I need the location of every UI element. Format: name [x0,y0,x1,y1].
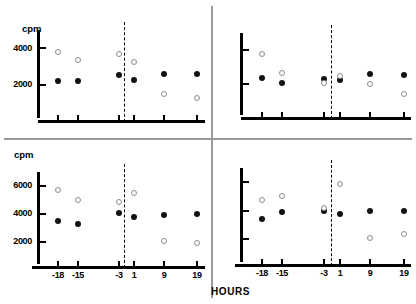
x-axis-tick [118,115,120,120]
x-axis-line [241,117,411,120]
y-axis-tick-label: 2000 [2,80,32,89]
panel-bottom-right: -18-15-31919 [213,140,416,304]
y-axis-tick-label: 2000 [2,237,32,246]
y-axis-tick [243,49,249,51]
data-point-open [131,190,137,196]
x-axis-label: HOURS [211,286,250,297]
data-point-open [279,193,285,199]
data-point-open [161,91,167,97]
data-point-filled [161,212,167,218]
x-axis-tick [339,259,341,264]
data-point-filled [131,77,137,83]
x-axis-line [32,266,205,269]
data-point-filled [279,209,285,215]
x-axis-tick [196,115,198,120]
x-axis-tick [163,115,165,120]
x-axis-line [38,120,205,123]
x-axis-tick [369,112,371,117]
data-point-filled [75,78,81,84]
data-point-open [75,57,81,63]
data-point-open [194,240,200,246]
y-axis-tick [40,241,46,243]
data-point-filled [279,80,285,86]
x-axis-tick [77,115,79,120]
reference-line [124,164,125,268]
data-point-open [279,70,285,76]
data-point-filled [401,208,407,214]
plot-area-top-right [213,0,416,138]
x-axis-tick-label: -15 [276,269,288,278]
x-axis-line [235,264,411,267]
x-axis-tick [281,112,283,117]
data-point-open [75,197,81,203]
x-axis-tick [323,259,325,264]
x-axis-tick [57,261,59,266]
x-axis-tick [369,259,371,264]
y-axis-tick [243,238,249,240]
x-axis-tick-label: -18 [256,269,268,278]
data-point-filled [116,72,122,78]
x-axis-tick [133,115,135,120]
x-axis-tick-label: -3 [115,271,122,280]
plot-area-top-left: 40002000 [0,0,211,138]
y-axis-tick [243,181,249,183]
data-point-open [367,81,373,87]
x-axis-tick [323,112,325,117]
x-axis-tick [339,112,341,117]
x-axis-tick [77,261,79,266]
y-axis-tick-label: 6000 [2,181,32,190]
data-point-filled [367,208,373,214]
y-axis-tick-label: 4000 [2,209,32,218]
data-point-open [116,199,122,205]
data-point-filled [194,211,200,217]
data-point-open [161,238,167,244]
x-axis-tick [261,259,263,264]
data-point-open [55,187,61,193]
data-point-filled [194,71,200,77]
data-point-filled [161,71,167,77]
x-axis-tick [133,261,135,266]
reference-line [331,25,332,119]
plot-area-bottom-right: -18-15-31919 [213,140,416,304]
data-point-open [194,95,200,101]
data-point-filled [75,221,81,227]
data-point-open [259,197,265,203]
scatter-figure: cpm 40002000 cpm 600040002000-18-15-3191… [0,0,416,304]
data-point-filled [116,210,122,216]
y-axis-line [240,33,243,115]
reference-line [331,160,332,266]
y-axis-tick [243,210,249,212]
y-axis-tick [40,185,46,187]
x-axis-tick [118,261,120,266]
data-point-open [259,51,265,57]
y-axis-tick [243,83,249,85]
panel-top-right [213,0,416,138]
data-point-filled [55,218,61,224]
x-axis-tick-label: 9 [368,269,373,278]
data-point-filled [259,75,265,81]
x-axis-tick [261,112,263,117]
plot-area-bottom-left: 600040002000-18-15-31919 [0,140,211,304]
data-point-filled [401,72,407,78]
x-axis-tick-label: -18 [52,271,64,280]
x-axis-tick-label: -3 [320,269,327,278]
x-axis-tick [281,259,283,264]
x-axis-tick [403,259,405,264]
x-axis-tick [196,261,198,266]
x-axis-tick-label: 9 [162,271,167,280]
data-point-open [401,91,407,97]
data-point-filled [131,214,137,220]
panel-bottom-left: cpm 600040002000-18-15-31919 [0,140,211,304]
y-axis-tick-label: 4000 [2,44,32,53]
y-axis-tick [40,47,46,49]
x-axis-tick-label: 1 [132,271,137,280]
data-point-open [116,51,122,57]
data-point-open [337,181,343,187]
data-point-open [131,59,137,65]
x-axis-tick-label: 19 [192,271,201,280]
y-axis-tick [40,213,46,215]
x-axis-tick-label: 1 [338,269,343,278]
data-point-filled [367,71,373,77]
data-point-open [321,80,327,86]
x-axis-tick [163,261,165,266]
